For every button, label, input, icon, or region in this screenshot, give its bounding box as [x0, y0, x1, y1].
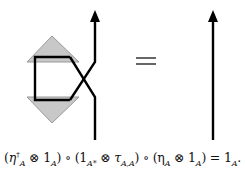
arrow-up-icon	[90, 10, 100, 22]
arrow-up-icon	[208, 10, 218, 22]
equation-caption: (η†A ⊗ 1A) ∘ (1A* ⊗ τA,A) ∘ (ηA ⊗ 1A) = …	[0, 150, 245, 168]
string-diagram	[0, 0, 245, 145]
loop-strand	[35, 57, 70, 100]
